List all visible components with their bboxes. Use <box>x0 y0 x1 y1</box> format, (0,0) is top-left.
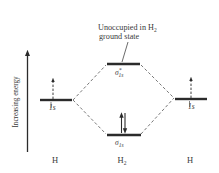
sigma-1s-level: σ1s <box>107 113 141 148</box>
mo-diagram: Increasing energy Unoccupied in H2 groun… <box>0 0 219 173</box>
left-h-1s-level: 1s <box>40 80 72 112</box>
annotation-line2: ground state <box>99 32 140 41</box>
svg-text:σ*1s: σ*1s <box>115 67 123 78</box>
annotation-line1: Unoccupied in H <box>98 23 154 32</box>
svg-text:H2: H2 <box>118 155 127 166</box>
right-h-1s-level: 1s <box>175 79 207 111</box>
sigma-subscript: 1s <box>119 142 124 148</box>
bonding-to-right-line <box>141 98 174 134</box>
antibonding-to-right-line <box>141 65 174 98</box>
sigma-star-1s-level: σ*1s <box>107 64 140 78</box>
svg-text:σ1s: σ1s <box>115 138 124 148</box>
right-1s-label: 1s <box>188 102 195 111</box>
left-to-antibonding-line <box>73 65 106 100</box>
annotation-line1-subscript: 2 <box>154 27 157 33</box>
right-atom-label: H <box>187 155 193 165</box>
left-1s-label: 1s <box>49 103 56 112</box>
unoccupied-annotation: Unoccupied in H2 ground state <box>98 23 157 62</box>
left-atom-label: H <box>52 155 58 165</box>
sigma-star-subscript: 1s <box>118 72 123 78</box>
molecule-label-subscript: 2 <box>124 160 127 166</box>
energy-axis: Increasing energy <box>12 53 28 152</box>
annotation-leader-line <box>122 42 128 62</box>
atom-labels: H H2 H <box>52 155 193 166</box>
left-to-bonding-line <box>73 100 106 134</box>
correlation-lines <box>73 65 174 134</box>
energy-axis-label: Increasing energy <box>12 76 20 128</box>
